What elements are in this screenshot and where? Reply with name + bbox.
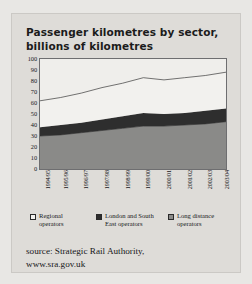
legend-swatch-london-south-east-operators <box>96 214 102 220</box>
x-tick-2001-02: 2001/02 <box>186 170 193 189</box>
x-tick-1999-00: 1999/00 <box>144 170 151 189</box>
x-tick-1998-99: 1998/99 <box>124 170 131 189</box>
y-tick-10: 10 <box>31 154 37 161</box>
legend-item-long-distance-operators: Long distance operators <box>168 212 214 229</box>
x-axis-labels: 1994/951995/961996/971997/981998/991999/… <box>39 170 225 210</box>
x-tick-1995-96: 1995/96 <box>62 170 69 189</box>
legend-swatch-regional-operators <box>30 214 36 220</box>
figure-panel: Passenger kilometres by sector, billions… <box>12 14 240 272</box>
y-tick-0: 0 <box>34 165 37 172</box>
y-tick-70: 70 <box>31 88 37 95</box>
x-tick-2000-01: 2000/01 <box>165 170 172 189</box>
legend-swatch-long-distance-operators <box>168 214 174 220</box>
x-tick-1996-97: 1996/97 <box>82 170 89 189</box>
y-tick-30: 30 <box>31 132 37 139</box>
source-note: source: Strategic Rail Authority, www.sr… <box>26 245 232 270</box>
y-tick-60: 60 <box>31 99 37 106</box>
legend-label-regional-operators: Regional operators <box>39 212 64 229</box>
x-tick-1997-98: 1997/98 <box>103 170 110 189</box>
y-tick-100: 100 <box>28 55 37 62</box>
plot-area <box>39 58 227 170</box>
legend-item-regional-operators: Regional operators <box>30 212 64 229</box>
page-title: Passenger kilometres by sector, billions… <box>26 26 232 53</box>
y-tick-50: 50 <box>31 110 37 117</box>
y-axis-labels: 0102030405060708090100 <box>16 58 38 170</box>
stacked-area-chart: 0102030405060708090100 1994/951995/96199… <box>16 58 238 210</box>
legend-item-london-south-east-operators: London and South East operators <box>96 212 154 229</box>
figure-page: Passenger kilometres by sector, billions… <box>0 0 252 284</box>
chart-legend: Regional operatorsLondon and South East … <box>20 212 236 236</box>
legend-label-long-distance-operators: Long distance operators <box>177 212 214 229</box>
x-tick-2002-03: 2002/03 <box>206 170 213 189</box>
y-tick-90: 90 <box>31 66 37 73</box>
y-tick-80: 80 <box>31 77 37 84</box>
plot-svg <box>40 59 226 169</box>
y-tick-40: 40 <box>31 121 37 128</box>
y-tick-20: 20 <box>31 143 37 150</box>
x-tick-1994-95: 1994/95 <box>44 170 51 189</box>
x-tick-2003-04: 2003/04 <box>223 170 230 189</box>
legend-label-london-south-east-operators: London and South East operators <box>105 212 154 229</box>
